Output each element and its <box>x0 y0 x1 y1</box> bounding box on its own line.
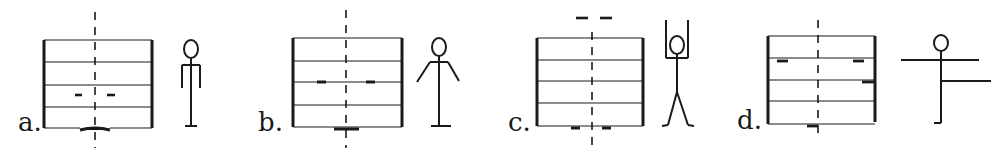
panel-label-d: d. <box>737 105 762 135</box>
stave-box-a <box>44 40 152 128</box>
panel-b: b. <box>258 10 459 148</box>
panel-label-a: a. <box>18 107 42 137</box>
stick-figure-a-arms-down <box>182 40 200 126</box>
stick-figure-c-arms-up <box>662 20 694 126</box>
stave-box-d <box>768 36 875 124</box>
panel-a: a. <box>18 12 200 148</box>
stave-box-b <box>293 38 402 127</box>
stave-box-c <box>537 38 643 126</box>
diagram-canvas: a. b. <box>0 0 1004 150</box>
panel-label-c: c. <box>508 107 531 137</box>
panel-c: c. <box>508 18 694 148</box>
panel-label-b: b. <box>258 107 283 137</box>
position-marks-d <box>777 61 874 126</box>
stick-figure-d-t-balance <box>901 35 991 123</box>
stick-figure-b-arms-diagonal <box>417 38 459 126</box>
panel-d: d. <box>737 20 991 135</box>
